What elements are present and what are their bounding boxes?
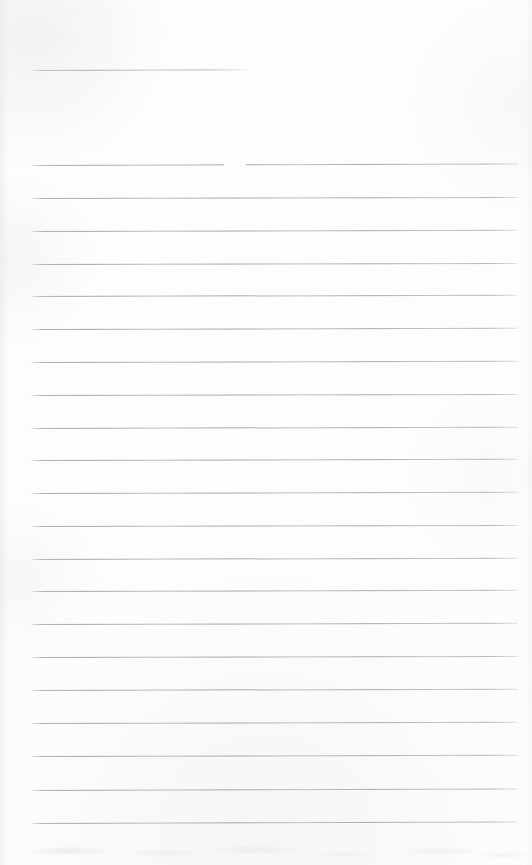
ruled-line <box>31 755 518 757</box>
ruled-line <box>31 230 518 232</box>
ruled-line <box>31 722 518 724</box>
bottom-edge-smudge <box>0 835 532 865</box>
scanned-page <box>0 0 532 865</box>
ruled-line <box>31 525 518 527</box>
ruled-line <box>31 361 518 363</box>
ruled-line <box>31 263 518 265</box>
ruled-line <box>31 656 518 658</box>
ink-break-on-first-rule <box>224 164 246 167</box>
ruled-line <box>31 689 518 691</box>
ruled-line <box>31 164 518 166</box>
ruled-line <box>31 328 518 330</box>
scan-edge-shadow <box>0 0 532 865</box>
ruled-line <box>31 295 518 297</box>
paper-texture <box>0 0 532 865</box>
ruled-line <box>31 558 518 560</box>
ruled-line <box>31 822 518 824</box>
ruled-line <box>31 492 518 494</box>
ruled-line <box>31 623 518 625</box>
ruled-line <box>31 590 518 592</box>
ruled-line <box>31 427 518 429</box>
short-top-rule <box>31 69 248 71</box>
ruled-line <box>31 459 518 461</box>
ruled-line <box>31 394 518 396</box>
ruled-line <box>31 788 518 791</box>
ruled-line <box>31 197 518 199</box>
